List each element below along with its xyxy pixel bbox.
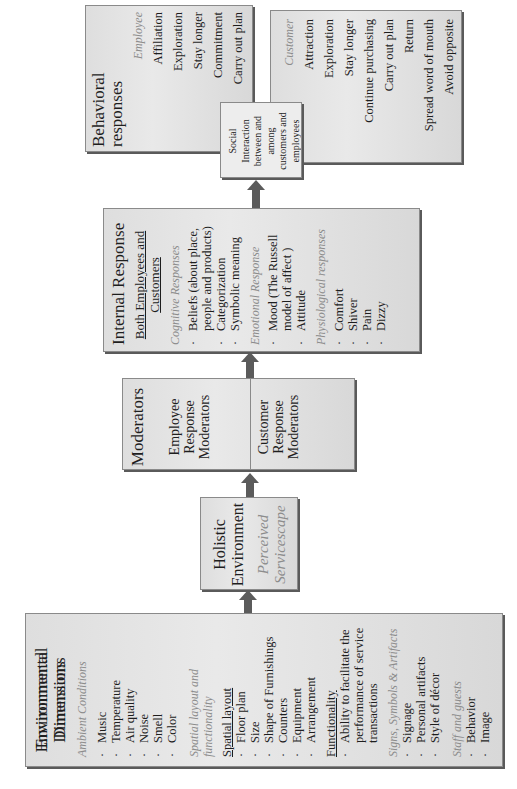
list-item: ·Color: [165, 617, 179, 757]
list-item: Stay longer: [339, 19, 359, 158]
emotional-heading: Emotional Response: [248, 213, 262, 345]
list-item: Continue purchasing: [359, 19, 379, 158]
list-item: Exploration: [319, 19, 339, 158]
moderators-box: Moderators Employee Response Moderators …: [122, 378, 355, 470]
list-item: ·Smell: [151, 617, 165, 757]
environmental-text: Environmental Dimensions Ambient Conditi…: [25, 613, 503, 767]
list-item: Spread word of mouth: [419, 19, 439, 158]
internal-response-box: Internal Response Both Employees and Cus…: [103, 208, 420, 352]
employee-heading: Employee: [128, 12, 148, 147]
list-item: ·Dizzy: [374, 213, 388, 345]
perceived-servicescape-label: Perceived Servicescape: [255, 502, 289, 587]
arrow-internal-to-social: [248, 180, 264, 208]
list-item: Attraction: [299, 19, 319, 158]
ambient-heading: Ambient Conditions: [75, 617, 89, 757]
moderators-title: Moderators: [129, 383, 147, 470]
spatial-functionality-heading: Spatial layout and functionality: [187, 617, 215, 757]
list-item: ·Signage: [400, 617, 414, 757]
list-item: ·Arrangement: [304, 617, 318, 757]
list-item: Affiliation: [148, 12, 168, 147]
list-item: ·Symbolic meaning: [228, 213, 242, 345]
customer-response-moderators: Customer Response Moderators: [256, 383, 301, 470]
list-item: ·Shiver: [346, 213, 360, 345]
environmental-dimensions-title: Environmental Dimensions: [33, 647, 69, 757]
list-item: ·Air quality: [123, 617, 137, 757]
arrow-moderators-to-internal: [242, 352, 258, 378]
behavioral-responses-title: Behavioral responses: [90, 12, 126, 147]
list-item: ·Comfort: [332, 213, 346, 345]
list-item: Stay longer: [188, 12, 208, 147]
holistic-environment-box: Holistic Environment Perceived Servicesc…: [200, 497, 298, 590]
list-item: ·Style of décor: [428, 617, 442, 757]
social-interaction-box: Social Interaction between and among cus…: [220, 102, 302, 178]
signs-heading: Signs, Symbols & Artifacts: [386, 617, 400, 757]
list-item: ·Counters: [276, 617, 290, 757]
list-item: ·Size: [248, 617, 262, 757]
list-item: ·Personal artifacts: [414, 617, 428, 757]
holistic-title: Holistic Environment: [211, 502, 247, 587]
list-item: ·Categorization: [214, 213, 228, 345]
internal-response-title: Internal Response: [110, 213, 128, 345]
list-item: ·Music: [95, 617, 109, 757]
list-item: Avoid opposite: [439, 19, 459, 158]
list-item: ·Image: [478, 617, 492, 757]
list-item: ·Floor plan: [234, 617, 248, 757]
list-item: ·Mood (The Russellmodel of affect ): [266, 213, 294, 345]
arrow-holistic-to-moderators: [242, 473, 258, 497]
list-item: ·Behavior: [464, 617, 478, 757]
list-item: · Ability to facilitate the performance …: [338, 617, 380, 757]
list-item: Return: [399, 19, 419, 158]
list-item: ·Beliefs (about place,people and product…: [186, 213, 214, 345]
list-item: ·Attitude: [294, 213, 308, 345]
arrow-env-to-holistic: [240, 590, 256, 613]
list-item: ·Equipment: [290, 617, 304, 757]
list-item: ·Shape of Furnishings: [262, 617, 276, 757]
spatial-layout-heading: Spatial layout: [220, 617, 234, 757]
list-item: ·Noise: [137, 617, 151, 757]
physiological-heading: Physiological responses: [314, 213, 328, 345]
list-item: ·Temperature: [109, 617, 123, 757]
both-employees-customers: Both Employees and Customers: [132, 225, 162, 345]
functionality-heading: Functionality: [324, 617, 338, 757]
list-item: Carry out plan: [379, 19, 399, 158]
list-item: Exploration: [168, 12, 188, 147]
list-item: ·Pain: [360, 213, 374, 345]
employee-response-moderators: Employee Response Moderators: [167, 383, 212, 470]
cognitive-heading: Cognitive Responses: [168, 213, 182, 345]
staff-heading: Staff and guests: [450, 617, 464, 757]
